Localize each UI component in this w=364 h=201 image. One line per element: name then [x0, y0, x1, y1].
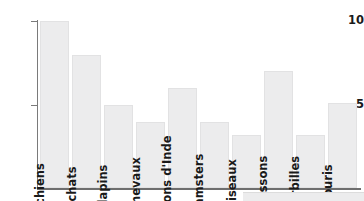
plot-area: chiens chats lapins chevaux cochons d'In… [38, 12, 364, 188]
bar-chiens[interactable] [40, 21, 69, 188]
bar-chats[interactable] [72, 55, 101, 188]
bar-oiseaux[interactable] [232, 135, 261, 188]
bar-gerbilles[interactable] [296, 135, 325, 188]
y-tick-mark-5 [31, 105, 38, 106]
x-axis-line [37, 188, 361, 190]
bottom-grey-band [243, 192, 364, 201]
bar-lapins[interactable] [104, 105, 133, 188]
bar-hamsters[interactable] [200, 122, 229, 188]
bar-poissons[interactable] [264, 71, 293, 188]
y-tick-mark-10 [31, 21, 38, 22]
bar-souris[interactable] [328, 103, 357, 188]
bar-chart: 10 5 chiens chats lapins chevaux cochons… [0, 0, 364, 201]
bar-cochons-d-inde[interactable] [168, 88, 197, 188]
bar-chevaux[interactable] [136, 122, 165, 188]
